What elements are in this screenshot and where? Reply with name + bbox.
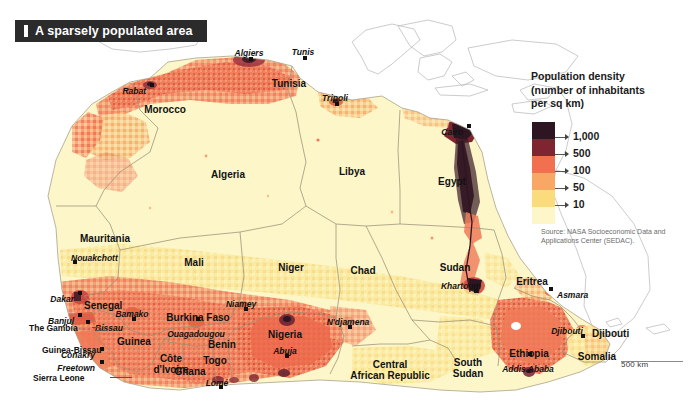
city-marker-icon: [528, 352, 532, 356]
city-marker-icon: [78, 313, 82, 317]
country-label: Egypt: [438, 176, 466, 187]
city-marker-icon: [474, 289, 478, 293]
legend-swatch: [532, 139, 555, 156]
country-label: Tunisia: [272, 78, 306, 89]
city-label: Banjul: [48, 316, 74, 326]
legend-class: 100: [532, 156, 652, 173]
bar-marker-icon: [24, 25, 28, 37]
page-title: A sparsely populated area: [35, 24, 193, 38]
country-label: Mauritania: [80, 233, 130, 244]
label-leader-line: [96, 330, 106, 331]
city-label: Lomé: [206, 378, 229, 388]
country-label: Niger: [278, 262, 304, 273]
city-label: Nouakchott: [71, 253, 118, 263]
city-label: Niamey: [226, 299, 256, 309]
city-label: Asmara: [557, 290, 588, 300]
city-marker-icon: [73, 260, 77, 264]
country-label-line: d'Ivoire: [153, 365, 188, 376]
legend-title-line-3: per sq km): [531, 97, 681, 111]
city-marker-icon: [196, 317, 200, 321]
scale-bar-label: 500 km: [621, 360, 648, 369]
city-marker-icon: [244, 307, 248, 311]
legend-color-ramp: 1,000 500 100 50: [532, 122, 652, 224]
legend: Population density (number of inhabitant…: [531, 70, 681, 224]
city-marker-icon: [132, 317, 136, 321]
country-label-line: African Republic: [350, 371, 429, 382]
city-marker-icon: [86, 320, 90, 324]
city-marker-icon: [285, 354, 289, 358]
source-note: Source: NASA Socioeconomic Data and Appl…: [541, 227, 666, 246]
country-label-line: South: [453, 358, 484, 369]
city-marker-icon: [100, 347, 104, 351]
country-label: Djibouti: [592, 328, 629, 339]
country-label: Mali: [184, 257, 203, 268]
country-label: Eritrea: [516, 276, 548, 287]
legend-swatch: [532, 190, 555, 207]
city-marker-icon: [549, 287, 553, 291]
city-label: Conakry: [61, 350, 95, 360]
legend-title-line-1: Population density: [531, 70, 681, 84]
city-marker-icon: [100, 360, 104, 364]
label-leader-line: [92, 327, 100, 328]
city-marker-icon: [249, 57, 253, 61]
chart-title-banner: A sparsely populated area: [15, 20, 207, 42]
city-label: Cairo: [441, 127, 463, 137]
city-label: Dakar: [50, 294, 74, 304]
legend-class: 10: [532, 190, 652, 207]
country-label: Sierra Leone: [33, 373, 85, 384]
country-label: Libya: [339, 166, 365, 177]
city-marker-icon: [467, 124, 471, 128]
legend-class: 50: [532, 173, 652, 190]
city-label: Bissau: [95, 323, 123, 333]
label-leader-line: [110, 377, 132, 378]
country-label: Guinea: [117, 336, 151, 347]
city-label: Freetown: [57, 363, 95, 373]
country-label: Benin: [208, 339, 236, 350]
legend-title: Population density (number of inhabitant…: [531, 70, 681, 111]
scale-bar: 500 km: [621, 360, 683, 362]
population-density-map: A sparsely populated area Population den…: [0, 0, 689, 405]
legend-swatch: [532, 207, 555, 224]
country-label: Sudan: [440, 262, 471, 273]
legend-class: 1,000: [532, 122, 652, 139]
legend-swatch: [532, 156, 555, 173]
country-label: Algeria: [211, 169, 245, 180]
legend-swatch: [532, 122, 555, 139]
legend-swatch: [532, 173, 555, 190]
city-marker-icon: [348, 325, 352, 329]
legend-class: 500: [532, 139, 652, 156]
country-label: Somalia: [578, 351, 616, 362]
country-label: Chad: [351, 265, 376, 276]
country-label: CentralAfrican Republic: [350, 360, 429, 381]
city-marker-icon: [335, 102, 339, 106]
country-label-line: Sierra Leone: [33, 373, 85, 384]
city-label: Djibouti: [551, 326, 583, 336]
country-label-line: Central: [350, 360, 429, 371]
city-label: Addis Ababa: [502, 364, 554, 374]
country-label: Nigeria: [268, 329, 302, 340]
legend-class-lowest: [532, 207, 652, 224]
city-marker-icon: [303, 56, 307, 60]
city-label: Rabat: [122, 86, 146, 96]
legend-title-line-2: (number of inhabitants: [531, 84, 681, 98]
city-marker-icon: [78, 291, 82, 295]
country-label-line: Sudan: [453, 369, 484, 380]
city-marker-icon: [219, 385, 223, 389]
country-label: Côted'Ivoire: [153, 354, 188, 375]
country-label: SouthSudan: [453, 358, 484, 379]
city-marker-icon: [581, 334, 585, 338]
city-label: Ouagadougou: [167, 329, 225, 339]
country-label: Morocco: [144, 104, 186, 115]
country-label-line: Côte: [153, 354, 188, 365]
city-marker-icon: [150, 83, 154, 87]
country-label: Togo: [203, 355, 227, 366]
